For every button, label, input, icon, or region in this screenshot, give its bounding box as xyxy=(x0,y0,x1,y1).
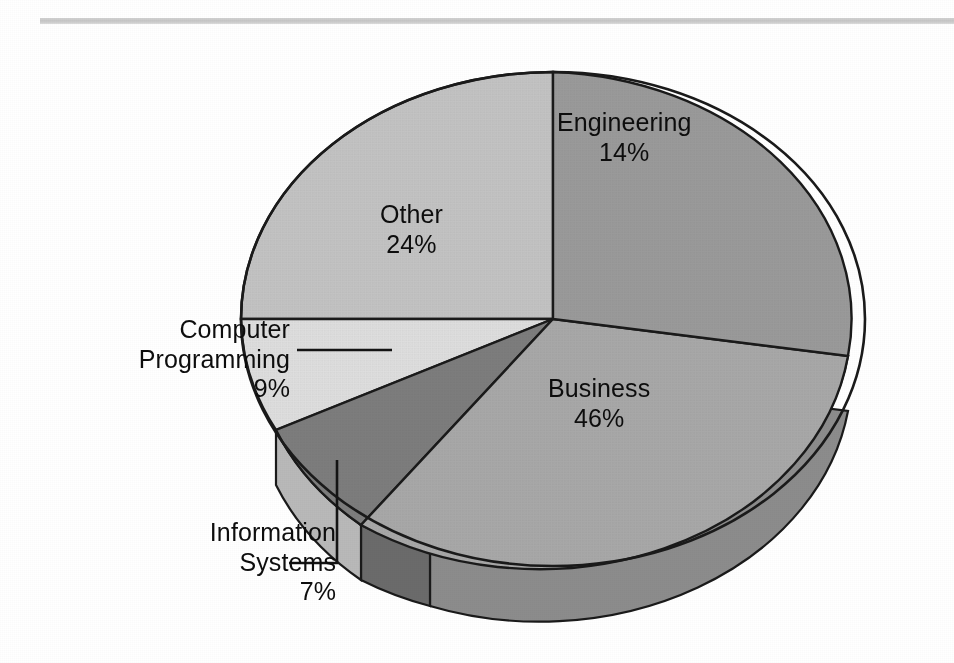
pie-chart-graphic xyxy=(0,0,954,663)
slice-top-engineering xyxy=(553,72,852,356)
slice-top-other xyxy=(241,72,553,319)
pie-chart-figure: Engineering 14% Other 24% Business 46% C… xyxy=(0,0,954,663)
